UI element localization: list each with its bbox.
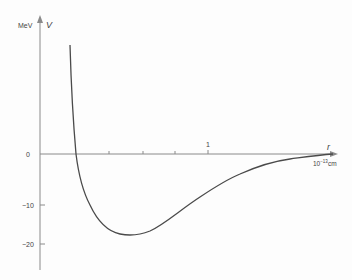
y-tick-label-0: 0 bbox=[26, 151, 30, 158]
y-axis-name: V bbox=[46, 20, 53, 30]
x-unit-label: 10−13cm bbox=[313, 159, 337, 167]
y-axis-arrow-icon bbox=[37, 15, 43, 23]
potential-curve bbox=[70, 45, 333, 235]
potential-energy-chart: MeV V 0 −10 −20 1 r 10−13cm bbox=[0, 0, 352, 280]
chart-svg: MeV V 0 −10 −20 1 r 10−13cm bbox=[0, 0, 352, 280]
y-tick-label-m20: −20 bbox=[22, 241, 34, 248]
y-unit-label: MeV bbox=[18, 22, 33, 29]
x-tick-label-1: 1 bbox=[206, 141, 210, 148]
y-tick-label-m10: −10 bbox=[22, 202, 34, 209]
x-axis-name: r bbox=[327, 142, 331, 152]
